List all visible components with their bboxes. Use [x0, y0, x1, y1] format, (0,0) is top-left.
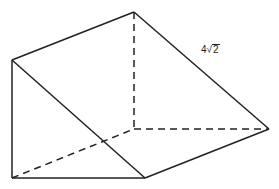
edge-top — [12, 12, 134, 60]
label-radicand: 2 — [212, 44, 220, 55]
edge-slant-front — [12, 60, 145, 178]
hidden-edge-diagonal — [12, 129, 134, 178]
edge-slant-back — [134, 12, 269, 129]
edge-length-label: 4√2 — [201, 44, 220, 55]
prism-diagram — [0, 0, 279, 189]
edge-bottom-right — [145, 129, 269, 178]
